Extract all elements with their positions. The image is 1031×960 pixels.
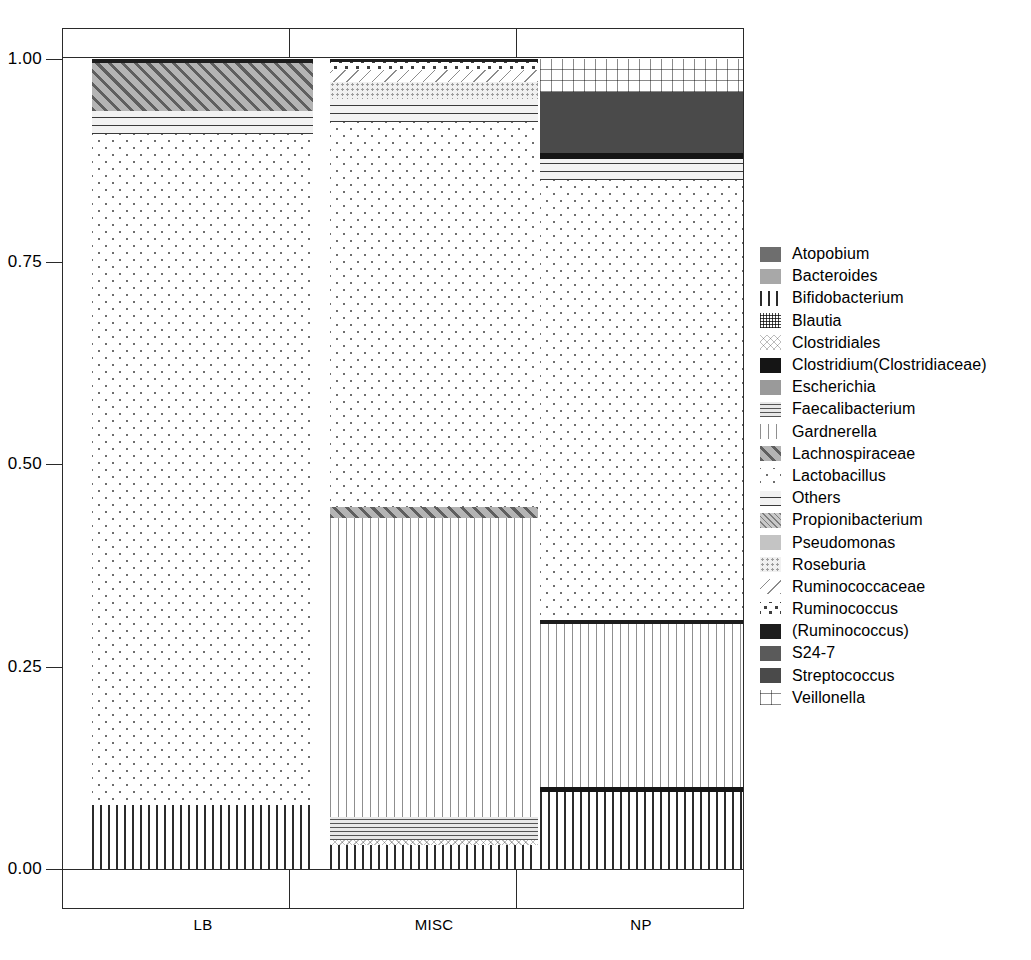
- legend-label: Escherichia: [792, 379, 876, 395]
- legend-item: Ruminococcaceae: [760, 576, 1025, 598]
- y-axis-tick: [46, 869, 62, 870]
- bar-segment: [330, 122, 538, 507]
- y-axis-label: 0.75: [0, 253, 42, 270]
- legend-label: Lachnospiraceae: [792, 446, 915, 462]
- bar-segment: [330, 59, 538, 62]
- legend-label: Bacteroides: [792, 268, 878, 284]
- legend-label: Faecalibacterium: [792, 401, 915, 417]
- legend-item: Clostridiales: [760, 332, 1025, 354]
- bar-segment: [330, 840, 538, 845]
- legend-swatch-icon: [760, 380, 781, 395]
- legend-item: Atopobium: [760, 243, 1025, 265]
- x-axis-panel: [62, 869, 744, 909]
- legend-swatch-icon: [760, 624, 781, 639]
- bar-segment: [540, 787, 743, 792]
- legend-item: Bacteroides: [760, 265, 1025, 287]
- bar-segment: [92, 59, 313, 63]
- legend-swatch-icon: [760, 335, 781, 350]
- legend-label: Propionibacterium: [792, 512, 923, 528]
- legend-swatch-icon: [760, 291, 781, 306]
- x-axis-divider: [289, 869, 290, 909]
- bar-segment: [330, 62, 538, 70]
- bar-segment: [540, 153, 743, 159]
- strip-divider: [289, 29, 290, 57]
- legend-item: Propionibacterium: [760, 509, 1025, 531]
- bar-segment: [92, 111, 313, 134]
- legend-swatch-icon: [760, 535, 781, 550]
- legend-swatch-icon: [760, 402, 781, 417]
- legend-item: S24-7: [760, 642, 1025, 664]
- legend-swatch-icon: [760, 269, 781, 284]
- legend-item: Clostridium(Clostridiaceae): [760, 354, 1025, 376]
- bar-segment: [92, 134, 313, 805]
- legend-item: (Ruminococcus): [760, 620, 1025, 642]
- stacked-bar-misc: [330, 59, 538, 869]
- y-axis-label: 0.25: [0, 658, 42, 675]
- legend-swatch-icon: [760, 513, 781, 528]
- legend-item: Others: [760, 487, 1025, 509]
- legend-label: S24-7: [792, 645, 835, 661]
- strip-divider: [516, 29, 517, 57]
- bar-segment: [92, 805, 313, 869]
- bar-segment: [92, 63, 313, 111]
- legend-label: Clostridium(Clostridiaceae): [792, 357, 987, 373]
- chart-root: 1.000.750.500.250.00 LBMISCNP AtopobiumB…: [0, 0, 1031, 960]
- bar-segment: [330, 70, 538, 81]
- legend-label: Others: [792, 490, 841, 506]
- bar-segment: [330, 845, 538, 869]
- bar-segment: [540, 624, 743, 787]
- legend-item: Lachnospiraceae: [760, 443, 1025, 465]
- legend-label: Lactobacillus: [792, 468, 886, 484]
- legend-label: Blautia: [792, 313, 842, 329]
- bar-segment: [330, 507, 538, 518]
- bar-segment: [540, 92, 743, 153]
- stacked-bar-lb: [92, 59, 313, 869]
- legend-swatch-icon: [760, 690, 781, 705]
- legend-item: Pseudomonas: [760, 531, 1025, 553]
- legend-swatch-icon: [760, 247, 781, 262]
- bar-segment: [330, 518, 538, 817]
- legend-swatch-icon: [760, 468, 781, 483]
- legend-item: Streptococcus: [760, 665, 1025, 687]
- legend-swatch-icon: [760, 313, 781, 328]
- legend-label: Clostridiales: [792, 335, 880, 351]
- legend-label: Atopobium: [792, 246, 869, 262]
- legend-item: Escherichia: [760, 376, 1025, 398]
- legend-item: Veillonella: [760, 687, 1025, 709]
- legend-swatch-icon: [760, 358, 781, 373]
- legend-swatch-icon: [760, 668, 781, 683]
- legend-swatch-icon: [760, 446, 781, 461]
- bar-segment: [330, 817, 538, 840]
- legend-item: Lactobacillus: [760, 465, 1025, 487]
- legend-swatch-icon: [760, 424, 781, 439]
- x-axis-label-lb: LB: [143, 916, 263, 933]
- bar-segment: [330, 99, 538, 122]
- legend-label: (Ruminococcus): [792, 623, 909, 639]
- bar-segment: [330, 82, 538, 99]
- bar-segment: [540, 180, 743, 621]
- legend-item: Blautia: [760, 310, 1025, 332]
- y-axis-line: [62, 58, 63, 870]
- legend-label: Streptococcus: [792, 668, 895, 684]
- legend-item: Bifidobacterium: [760, 287, 1025, 309]
- legend-label: Veillonella: [792, 690, 865, 706]
- legend-label: Ruminococcaceae: [792, 579, 925, 595]
- legend: AtopobiumBacteroidesBifidobacteriumBlaut…: [760, 243, 1025, 709]
- x-axis-divider: [516, 869, 517, 909]
- legend-label: Gardnerella: [792, 424, 877, 440]
- legend-swatch-icon: [760, 491, 781, 506]
- panel-strip: [62, 28, 744, 58]
- legend-item: Ruminococcus: [760, 598, 1025, 620]
- y-axis-tick: [46, 59, 62, 60]
- bar-segment: [540, 59, 743, 92]
- bar-segment: [540, 792, 743, 869]
- legend-item: Faecalibacterium: [760, 398, 1025, 420]
- x-axis-label-np: NP: [581, 916, 701, 933]
- legend-swatch-icon: [760, 602, 781, 617]
- y-axis-tick: [46, 667, 62, 668]
- y-axis-label: 0.50: [0, 455, 42, 472]
- y-axis-tick: [46, 464, 62, 465]
- y-axis-tick: [46, 262, 62, 263]
- legend-swatch-icon: [760, 646, 781, 661]
- legend-item: Gardnerella: [760, 421, 1025, 443]
